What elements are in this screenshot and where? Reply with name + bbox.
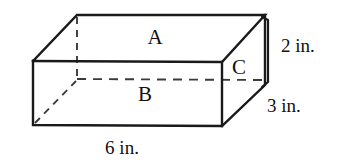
face-label-top: A bbox=[147, 25, 163, 49]
face-label-right: C bbox=[232, 55, 246, 79]
prism-figure: A B C 2 in. 3 in. 6 in. bbox=[0, 0, 340, 167]
dimension-label-depth: 3 in. bbox=[267, 95, 301, 116]
rectangular-prism-illustration: A B C 2 in. 3 in. 6 in. bbox=[0, 0, 340, 167]
dimension-label-width: 6 in. bbox=[105, 137, 139, 158]
dimension-label-height: 2 in. bbox=[281, 35, 315, 56]
face-front-fill bbox=[33, 61, 222, 126]
face-label-front: B bbox=[138, 82, 152, 106]
